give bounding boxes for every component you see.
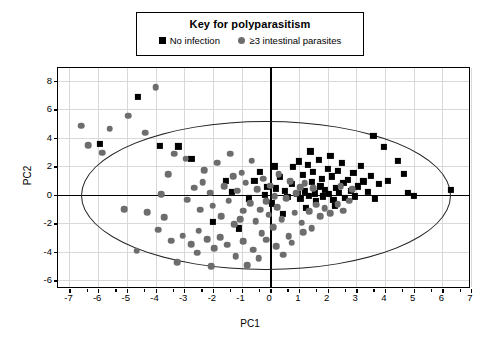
data-point-circle (293, 190, 300, 197)
data-point-circle (211, 245, 218, 252)
gridline-vertical (213, 68, 214, 287)
y-axis-tick-label: -4 (26, 245, 52, 256)
data-point-square (188, 155, 194, 161)
x-axis-tick-label: -6 (82, 292, 112, 303)
data-point-circle (224, 242, 231, 249)
gridline-horizontal (58, 81, 469, 82)
data-point-circle (184, 197, 191, 204)
data-point-circle (309, 225, 316, 232)
data-point-circle (191, 184, 198, 191)
data-point-circle (207, 189, 214, 196)
data-point-circle (218, 213, 225, 220)
data-point-circle (155, 227, 162, 234)
data-point-circle (327, 210, 334, 217)
data-point-circle (210, 202, 217, 209)
legend: Key for polyparasitism No infection ≥3 i… (136, 12, 364, 56)
data-point-circle (201, 167, 208, 174)
x-axis-tick-label: 7 (455, 292, 485, 303)
data-point-square (307, 148, 313, 154)
data-point-square (310, 169, 316, 175)
data-point-square (357, 163, 363, 169)
y-axis-tick (54, 109, 58, 110)
data-point-circle (85, 142, 92, 149)
y-axis-tick (54, 280, 58, 281)
gridline-vertical (356, 68, 357, 287)
data-point-circle (253, 218, 260, 225)
scatter-plot-figure: Key for polyparasitism No infection ≥3 i… (0, 0, 500, 342)
data-point-circle (250, 246, 257, 253)
x-axis-tick-label: -2 (197, 292, 227, 303)
x-axis-tick-label: -1 (226, 292, 256, 303)
data-point-circle (283, 195, 290, 202)
x-axis-tick-label: 1 (283, 292, 313, 303)
data-point-circle (274, 204, 281, 211)
data-point-square (157, 143, 163, 149)
gridline-horizontal (58, 138, 469, 139)
data-point-circle (134, 247, 141, 254)
data-point-square (360, 178, 366, 184)
data-point-square (210, 219, 216, 225)
data-point-square (335, 168, 341, 174)
data-point-circle (200, 179, 207, 186)
data-point-circle (334, 201, 341, 208)
circle-marker-icon (238, 37, 246, 45)
data-point-square (380, 144, 386, 150)
gridline-vertical (98, 68, 99, 287)
data-point-circle (255, 255, 262, 262)
data-point-circle (310, 185, 317, 192)
data-point-circle (306, 208, 313, 215)
x-axis-tick-label: 6 (426, 292, 456, 303)
y-axis-tick-label: 8 (26, 74, 52, 85)
gridline-vertical (414, 68, 415, 287)
y-axis-tick (54, 195, 58, 196)
data-point-circle (152, 84, 159, 91)
gridline-vertical (471, 68, 472, 287)
data-point-circle (233, 253, 240, 260)
data-point-circle (288, 239, 295, 246)
data-point-circle (214, 160, 221, 167)
data-point-circle (208, 263, 215, 270)
data-point-circle (195, 227, 202, 234)
data-point-circle (227, 150, 234, 157)
data-point-circle (280, 251, 287, 258)
gridline-vertical (442, 68, 443, 287)
data-point-circle (273, 243, 280, 250)
y-axis-tick-label: 2 (26, 160, 52, 171)
y-axis-tick (54, 166, 58, 167)
data-point-square (296, 158, 302, 164)
data-point-circle (237, 216, 244, 223)
data-point-circle (179, 232, 186, 239)
data-point-circle (99, 150, 106, 157)
data-point-circle (257, 207, 264, 214)
data-point-square (339, 160, 345, 166)
data-point-circle (254, 186, 261, 193)
data-point-square (316, 157, 322, 163)
data-point-circle (244, 262, 251, 269)
data-point-circle (278, 216, 285, 223)
y-axis-tick (54, 81, 58, 82)
data-point-square (329, 173, 335, 179)
data-point-square (273, 185, 279, 191)
plot-area (57, 67, 470, 288)
data-point-circle (158, 191, 165, 198)
data-point-circle (260, 175, 267, 182)
data-point-circle (78, 122, 85, 129)
data-point-circle (247, 200, 254, 207)
data-point-square (376, 181, 382, 187)
legend-title: Key for polyparasitism (137, 18, 363, 30)
gridline-vertical (242, 68, 243, 287)
data-point-square (271, 163, 277, 169)
data-point-circle (194, 249, 201, 256)
x-axis-tick-label: 0 (254, 292, 284, 303)
data-point-circle (298, 219, 305, 226)
data-point-square (448, 187, 454, 193)
data-point-circle (300, 229, 307, 236)
data-point-circle (217, 234, 224, 241)
x-axis-tick-label: -7 (53, 292, 83, 303)
data-point-circle (276, 171, 283, 178)
data-point-circle (313, 202, 320, 209)
data-point-circle (297, 184, 304, 191)
y-axis-tick (54, 252, 58, 253)
y-axis-tick (54, 138, 58, 139)
data-point-square (304, 162, 310, 168)
